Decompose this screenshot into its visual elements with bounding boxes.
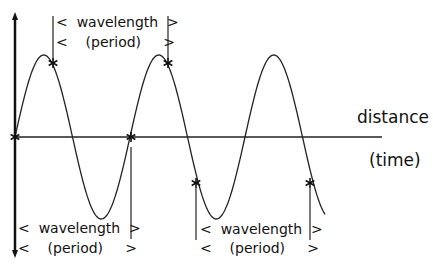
bottom-right-wavelength-bracket: < wavelength > < (period) > [196,188,323,256]
wave-diagram: < wavelength > < (period) > < wavelength… [0,0,433,264]
wavelength-label: < wavelength > [56,14,179,30]
bottom-left-wavelength-bracket: < wavelength > < (period) > [18,147,141,256]
wavelength-label: < wavelength > [200,221,323,237]
asterisk-markers [11,58,315,188]
period-label: < (period) > [56,34,175,50]
time-label: (time) [369,150,421,170]
period-label: < (period) > [200,240,319,256]
distance-label: distance [357,107,429,127]
vertical-axis-arrow-up [12,12,18,20]
period-label: < (period) > [18,240,137,256]
top-wavelength-bracket: < wavelength > < (period) > [53,14,179,60]
wavelength-label: < wavelength > [18,220,141,236]
